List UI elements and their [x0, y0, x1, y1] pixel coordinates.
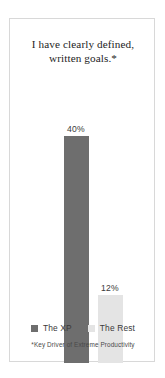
legend-label-xp: The XP	[43, 323, 72, 333]
bar-value-label-xp: 40%	[56, 124, 96, 134]
legend-swatch-icon-xp	[31, 325, 38, 332]
legend-label-rest: The Rest	[100, 323, 135, 333]
legend-item-xp: The XP	[31, 323, 72, 333]
bar-chart-plot: 40% 12%	[10, 19, 156, 363]
legend-item-rest: The Rest	[88, 323, 135, 333]
legend-swatch-icon-rest	[88, 325, 95, 332]
chart-card: I have clearly defined, written goals.* …	[9, 18, 155, 362]
chart-footnote: *Key Driver of Extreme Productivity	[14, 341, 152, 348]
bar-value-label-rest: 12%	[90, 283, 130, 293]
chart-legend: The XP The Rest	[10, 323, 156, 333]
